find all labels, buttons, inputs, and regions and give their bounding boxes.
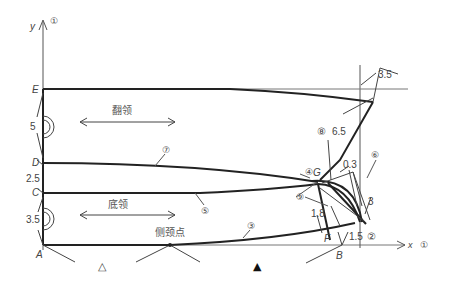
right-angle-marks — [43, 116, 54, 230]
marker-5: ⑤ — [201, 206, 209, 216]
dim-f-offset: 1.8 — [311, 208, 325, 219]
marker-3: ③ — [247, 221, 255, 231]
x-axis-label: x — [407, 240, 413, 250]
dim-vertical: 6.5 — [332, 126, 346, 137]
collar-outline — [43, 89, 373, 245]
dim-top-right: 3.5 — [378, 69, 392, 80]
diagram-svg: y ① x ① — [0, 0, 450, 284]
side-neck-point-dot — [168, 243, 172, 247]
dim-g-offset: 0.3 — [343, 159, 357, 170]
region-labels: 翻领 底领 侧颈点 — [108, 104, 185, 238]
collar-draft-diagram: y ① x ① — [0, 0, 450, 284]
x-axis-marker: ① — [420, 240, 428, 250]
point-f-label: F — [324, 233, 331, 244]
point-d-label: D — [32, 157, 39, 168]
y-axis-marker: ① — [50, 16, 58, 26]
point-c-label: C — [32, 187, 40, 198]
dim-corner: 3 — [368, 196, 374, 207]
marker-4: ④ — [305, 167, 313, 177]
marker-7: ⑦ — [162, 145, 170, 155]
side-neck-point-label: 侧颈点 — [155, 226, 185, 238]
point-b-label: B — [336, 250, 343, 261]
lower-collar-label: 底领 — [108, 198, 128, 210]
dim-fb: 1.5 — [349, 231, 363, 242]
upper-collar-label: 翻领 — [112, 104, 132, 116]
marker-6: ⑥ — [371, 150, 379, 160]
marker-2: ② — [367, 231, 376, 242]
y-axis-label: y — [29, 21, 36, 32]
point-a-label: A — [35, 249, 43, 260]
filled-triangle-symbol: ▲ — [253, 260, 262, 273]
dim-dc: 2.5 — [26, 173, 40, 184]
dim-ed: 5 — [30, 121, 36, 132]
marker-9: ⑨ — [296, 192, 304, 202]
marker-8: ⑧ — [317, 126, 326, 137]
point-g-label: G — [313, 167, 321, 178]
open-triangle-symbol: △ — [98, 260, 107, 272]
dim-ca: 3.5 — [26, 214, 40, 225]
point-e-label: E — [32, 84, 39, 95]
